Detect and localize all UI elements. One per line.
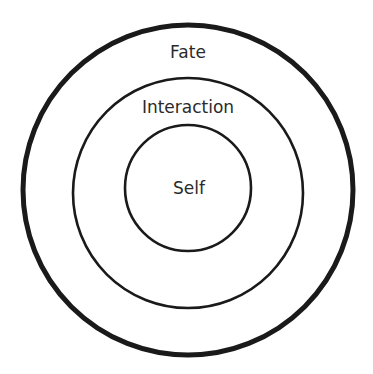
- concentric-circles-diagram: Fate Interaction Self: [0, 0, 373, 374]
- interaction-label: Interaction: [142, 97, 234, 117]
- fate-label: Fate: [170, 42, 206, 62]
- self-label: Self: [173, 178, 206, 198]
